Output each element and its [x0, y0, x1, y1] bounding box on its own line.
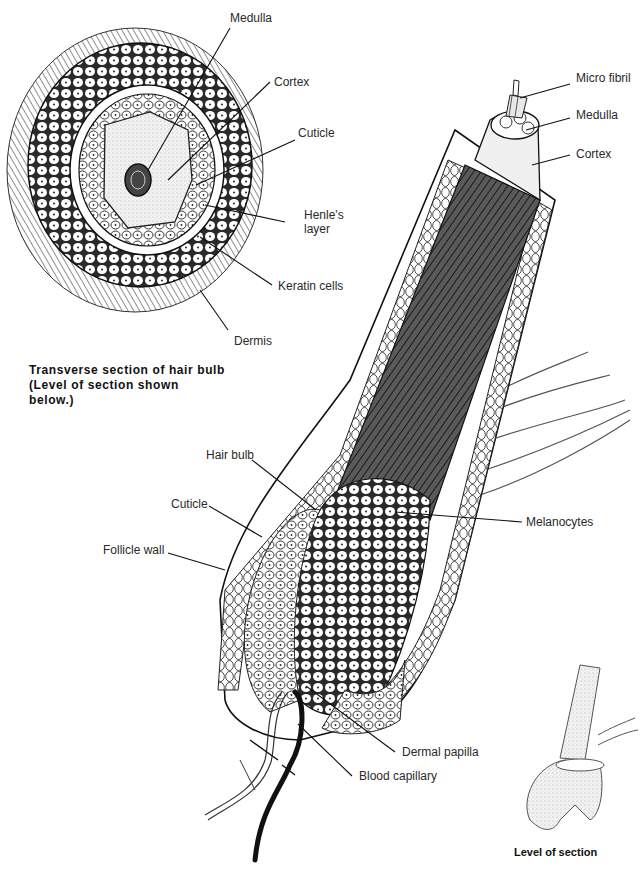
label-blood-capillary: Blood capillary [359, 769, 437, 783]
label-henles-layer-line2: layer [304, 222, 330, 236]
label-cuticle-follicle: Cuticle [171, 497, 208, 511]
transverse-section-caption: Transverse section of hair bulb (Level o… [29, 363, 225, 408]
level-of-section-inset [527, 665, 638, 829]
label-dermal-papilla: Dermal papilla [402, 745, 479, 759]
label-hair-bulb: Hair bulb [206, 448, 254, 462]
level-of-section-caption: Level of section [514, 846, 597, 858]
label-medulla-transverse: Medulla [230, 11, 272, 25]
label-micro-fibril: Micro fibril [576, 71, 631, 85]
label-follicle-wall: Follicle wall [103, 543, 164, 557]
label-medulla-follicle: Medulla [576, 108, 618, 122]
label-cortex-transverse: Cortex [274, 75, 309, 89]
label-keratin-cells: Keratin cells [278, 279, 343, 293]
label-cuticle-transverse: Cuticle [298, 126, 335, 140]
label-cortex-follicle: Cortex [576, 147, 611, 161]
label-henles-layer-line1: Henle's [304, 208, 344, 222]
transverse-section-drawing [7, 28, 263, 312]
label-melanocytes: Melanocytes [526, 515, 593, 529]
follicle-drawing [218, 80, 630, 740]
label-dermis: Dermis [234, 334, 272, 348]
